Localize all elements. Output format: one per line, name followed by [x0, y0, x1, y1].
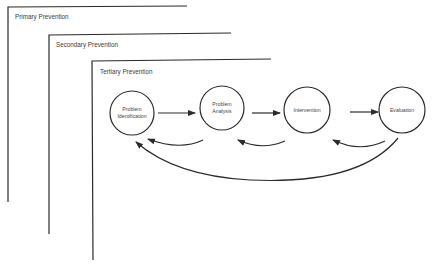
primary-prevention-frame [8, 6, 187, 202]
tertiary-prevention-frame [92, 59, 271, 260]
node-label-evaluation: Evaluation [390, 107, 414, 114]
arrow-feedback-intervention-to-analysis [238, 140, 285, 146]
node-label-intervention: Intervention [293, 107, 320, 114]
node-label-problem-analysis: Problem Analysis [212, 101, 231, 115]
node-label-problem-identification: Problem Identification [117, 106, 146, 120]
secondary-prevention-label: Secondary Prevention [56, 41, 118, 48]
tertiary-prevention-label: Tertiary Prevention [100, 68, 153, 75]
arrow-feedback-evaluation-to-identification [136, 138, 398, 180]
arrow-feedback-analysis-to-identification [148, 139, 203, 145]
primary-prevention-label: Primary Prevention [15, 13, 69, 20]
arrow-feedback-evaluation-to-intervention [333, 140, 385, 147]
